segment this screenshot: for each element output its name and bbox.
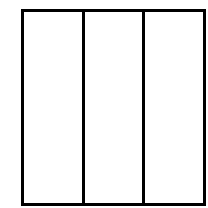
column-2 — [82, 12, 143, 203]
column-3 — [142, 12, 203, 203]
column-1 — [24, 12, 82, 203]
three-column-rectangle — [21, 9, 206, 206]
